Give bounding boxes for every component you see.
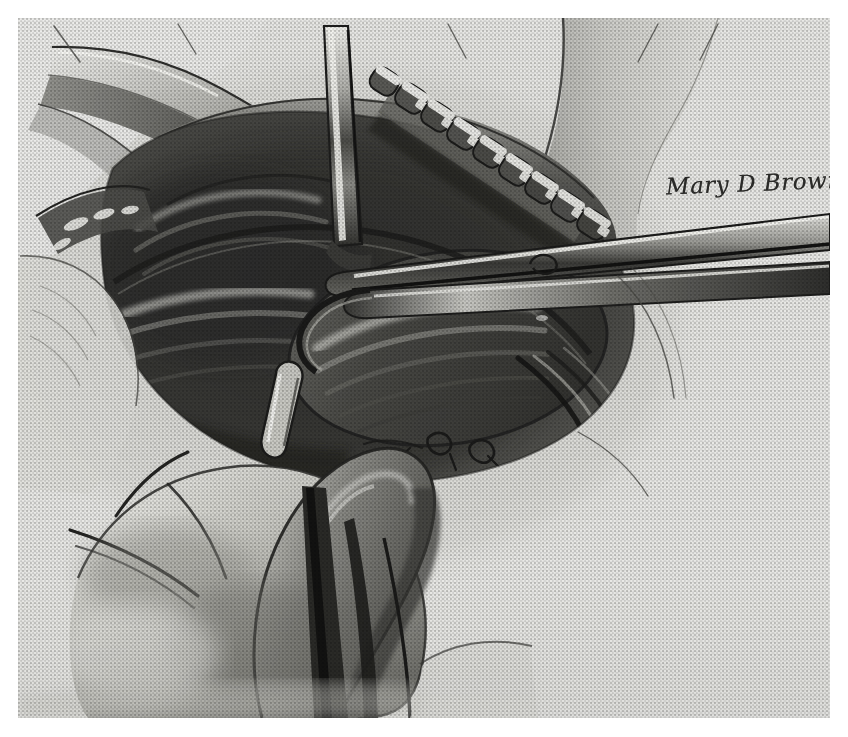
printed-plate: Mary D Brown [18,18,830,718]
surgical-illustration-artwork [18,18,830,718]
illustration-page: Mary D Brown [0,0,848,737]
